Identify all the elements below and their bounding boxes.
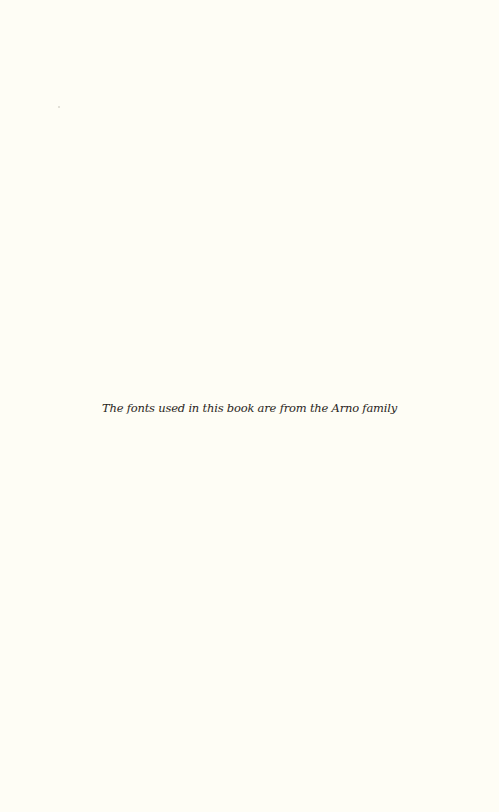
book-page: The fonts used in this book are from the…: [0, 0, 499, 812]
colophon-text: The fonts used in this book are from the…: [0, 400, 499, 416]
paper-speck: [58, 106, 60, 108]
